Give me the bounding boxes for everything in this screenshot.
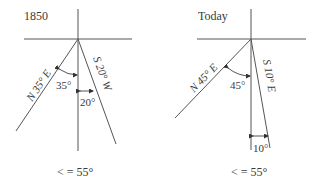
bearing-line-right [251, 39, 270, 148]
bearing-diagram: 1850 N 35° E S 20° W 35° 20° < = 55° Tod… [0, 0, 319, 188]
angle-right-label: 10° [253, 142, 268, 154]
panel-today: Today N 45° E S 10° E 45° 10° < = 55° [175, 9, 306, 179]
line-right-label: S 20° W [91, 55, 115, 93]
angle-right-label: 20° [80, 96, 95, 108]
panel-title: 1850 [24, 9, 48, 23]
angle-arc-left [59, 69, 77, 75]
caption: < = 55° [57, 165, 94, 179]
line-left-label: N 45° E [186, 61, 220, 95]
angle-left-label: 45° [230, 79, 245, 91]
angle-left-label: 35° [56, 79, 71, 91]
line-right-label: S 10° E [261, 58, 279, 93]
angle-arc-left [228, 68, 250, 76]
panel-1850: 1850 N 35° E S 20° W 35° 20° < = 55° [16, 9, 132, 179]
caption: < = 55° [231, 165, 268, 179]
panel-title: Today [198, 9, 228, 23]
